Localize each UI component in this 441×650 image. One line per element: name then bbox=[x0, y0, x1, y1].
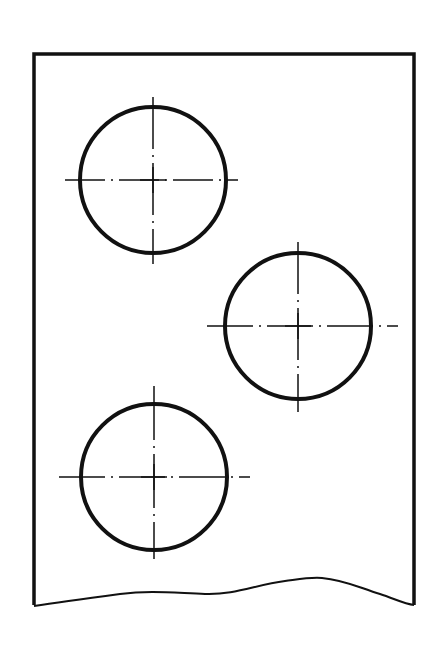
break-line bbox=[34, 578, 414, 606]
hole-right bbox=[207, 242, 398, 412]
technical-drawing bbox=[0, 0, 441, 650]
hole-top-left bbox=[65, 97, 238, 264]
hole-bottom-left bbox=[59, 386, 250, 559]
